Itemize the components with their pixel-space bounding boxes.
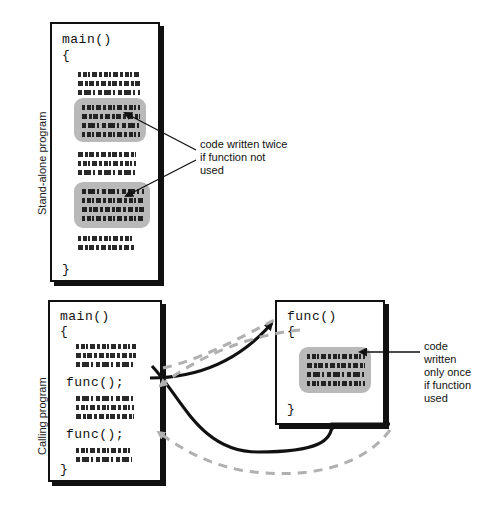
standalone-close-brace: } [62,262,70,277]
standalone-program-label: Stand-alone program [36,112,48,215]
diagram-canvas: Stand-alone program main() { [0,0,499,507]
caller-close-brace: } [60,462,68,477]
standalone-program-box: main() { } [50,22,160,282]
caller-code-lines-1 [76,344,136,371]
return-arrow-connector [163,318,278,368]
standalone-code-lines-2 [78,152,136,179]
caller-code-lines-3 [76,448,132,466]
call-arrow-1 [150,323,272,378]
return-arrow-2 [158,430,390,474]
caller-code-lines-2 [76,396,134,423]
function-definition-box: func() { } [275,300,385,425]
standalone-code-lines-1 [78,72,140,99]
function-open-brace: { [287,324,295,339]
function-close-brace: } [287,402,295,417]
standalone-main-signature: main() [62,32,112,47]
caller-func-call-2: func(); [66,427,124,442]
annotation-code-written-twice: code written twice if function not used [200,138,320,177]
annotation-code-written-once: code written only once if function used [424,340,496,405]
function-body-code-block [299,347,371,393]
caller-main-signature: main() [60,309,110,324]
standalone-duplicated-code-block-1 [74,98,146,142]
calling-program-label: Calling program [36,377,48,455]
caller-open-brace: { [60,324,68,339]
standalone-code-lines-3 [78,236,134,254]
standalone-open-brace: { [62,48,70,63]
function-signature: func() [287,309,337,324]
calling-program-box: main() { func(); func(); } [48,300,162,482]
caller-func-call-1: func(); [66,375,124,390]
standalone-duplicated-code-block-2 [74,182,150,228]
